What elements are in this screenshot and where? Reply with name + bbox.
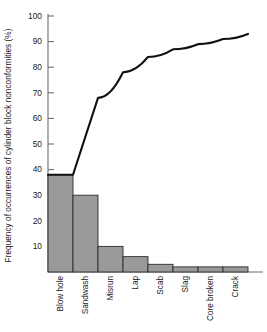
x-axis-tick-label-text: Scab <box>156 276 164 295</box>
x-axis-tick-label: Misrun <box>98 274 123 330</box>
x-axis-tick-labels: Blow holeSandwashMisrunLapScabSlagCore b… <box>0 274 267 332</box>
x-axis-tick-label: Blow hole <box>48 274 73 330</box>
x-axis-tick-label-text: Blow hole <box>56 276 64 312</box>
bar <box>48 175 73 272</box>
x-axis-tick-label-text: Crack <box>231 276 239 297</box>
bar <box>223 267 248 272</box>
bar <box>73 195 98 272</box>
x-axis-tick-label-text: Misrun <box>106 276 114 301</box>
x-axis-tick-label: Scab <box>148 274 173 330</box>
bar <box>173 267 198 272</box>
x-axis-tick-label: Crack <box>223 274 248 330</box>
x-axis-tick-label: Slag <box>173 274 198 330</box>
x-axis-tick-label-text: Core broken <box>206 276 214 321</box>
bar <box>148 264 173 272</box>
bar <box>198 267 223 272</box>
pareto-chart: Frequency of occurrences of cylinder blo… <box>0 0 267 332</box>
bar <box>123 257 148 272</box>
cumulative-line <box>48 34 248 175</box>
x-axis-tick-label-text: Sandwash <box>81 276 89 314</box>
x-axis-tick-label: Sandwash <box>73 274 98 330</box>
bar-series <box>48 175 248 272</box>
x-axis-tick-label-text: Slag <box>181 276 189 292</box>
x-axis-tick-label: Lap <box>123 274 148 330</box>
x-axis-tick-label-text: Lap <box>131 276 139 290</box>
bar <box>98 246 123 272</box>
cumulative-line-series <box>48 34 248 175</box>
x-axis-tick-label: Core broken <box>198 274 223 330</box>
